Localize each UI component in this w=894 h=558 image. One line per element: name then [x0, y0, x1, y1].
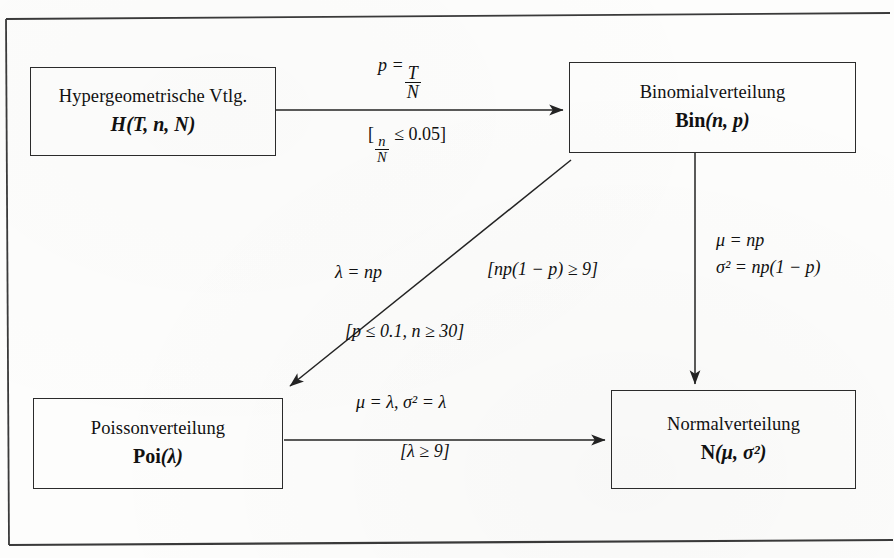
edge-label-binom-to-normal-mu: μ = np	[716, 230, 764, 250]
node-normal-symbol-args: (μ, σ²)	[715, 441, 766, 463]
node-binomial-symbol-letter: Bin	[675, 109, 705, 131]
node-hypergeometric-symbol-letter: H	[111, 113, 127, 135]
edge-label-binom-to-normal-condition: [np(1 − p) ≥ 9]	[487, 258, 598, 281]
node-poisson-symbol-args: (λ)	[161, 445, 183, 467]
node-binomial-name: Binomialverteilung	[640, 82, 786, 104]
node-binomial-symbol: Bin(n, p)	[675, 109, 749, 133]
edge-label-binom-to-poisson-condition: [p ≤ 0.1, n ≥ 30]	[345, 320, 464, 343]
edge-label-poisson-to-normal-mapping-text: μ = λ, σ² = λ	[356, 392, 446, 412]
node-poisson-name: Poissonverteilung	[91, 418, 225, 440]
edge-label-poisson-to-normal-condition: [λ ≥ 9]	[400, 440, 450, 463]
edge-label-binom-to-poisson-mapping-text: λ = np	[335, 262, 382, 282]
node-normal-distribution[interactable]: Normalverteilung N(μ, σ²)	[611, 390, 856, 489]
node-normal-name: Normalverteilung	[667, 414, 800, 436]
node-hypergeometric-name: Hypergeometrische Vtlg.	[59, 86, 248, 108]
edge-label-hyper-to-binom-condition-rhs: ≤ 0.05]	[394, 124, 446, 144]
edge-label-binom-to-normal-condition-text: [np(1 − p) ≥ 9]	[487, 259, 598, 279]
edge-label-binom-to-poisson-condition-text: [p ≤ 0.1, n ≥ 30]	[345, 321, 464, 341]
edge-label-binom-to-poisson-mapping: λ = np	[335, 261, 382, 284]
edge-label-binom-to-normal-mapping: μ = np σ² = np(1 − p)	[716, 229, 821, 278]
node-poisson-symbol: Poi(λ)	[133, 445, 183, 469]
fraction-T-over-N: TN	[405, 64, 421, 102]
node-normal-symbol: N(μ, σ²)	[701, 441, 767, 465]
edge-label-hyper-to-binom-condition: [nN ≤ 0.05]	[368, 123, 446, 165]
edge-label-binom-to-normal-sigma: σ² = np(1 − p)	[716, 257, 821, 277]
fraction-n-over-N: nN	[375, 134, 389, 165]
node-binomial-symbol-args: (n, p)	[705, 109, 749, 131]
edge-label-poisson-to-normal-mapping: μ = λ, σ² = λ	[356, 391, 446, 414]
node-binomial-distribution[interactable]: Binomialverteilung Bin(n, p)	[569, 62, 856, 153]
node-poisson-symbol-letter: Poi	[133, 445, 161, 467]
diagram-page: pp Hypergeometris	[0, 0, 894, 558]
node-hypergeometric-symbol: H(T, n, N)	[111, 113, 196, 137]
edge-label-hyper-to-binom-mapping-lhs: p =	[378, 55, 404, 75]
edge-label-poisson-to-normal-condition-text: [λ ≥ 9]	[400, 441, 450, 461]
node-hypergeometric-symbol-args: (T, n, N)	[126, 113, 195, 135]
node-hypergeometric-distribution[interactable]: Hypergeometrische Vtlg. H(T, n, N)	[30, 67, 276, 156]
node-normal-symbol-letter: N	[701, 441, 715, 463]
edge-label-hyper-to-binom-mapping: p =TN	[378, 54, 422, 102]
node-poisson-distribution[interactable]: Poissonverteilung Poi(λ)	[33, 398, 283, 489]
